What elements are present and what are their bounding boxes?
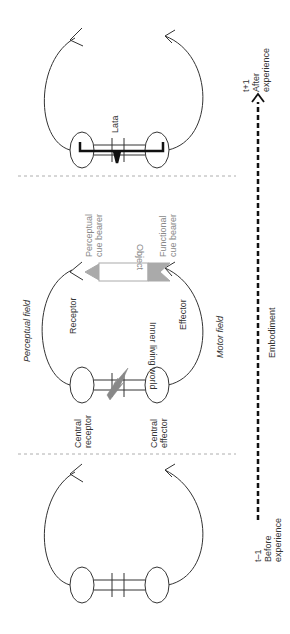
functional-circle-middle (42, 262, 203, 403)
effector-label: Effector (178, 299, 188, 330)
diagram-canvas (0, 0, 290, 634)
lightning-icon (107, 368, 128, 400)
inner-living-world-label: Inner living world (148, 322, 158, 390)
perceptual-cue-bearer-shape (85, 264, 99, 280)
before-experience-label: t–1 Before experience (253, 518, 283, 562)
motor-field-label: Motor field (215, 316, 225, 358)
functional-circle-after (44, 28, 203, 168)
perceptual-field-label: Perceptual field (22, 300, 32, 362)
functional-circle-before (44, 464, 203, 603)
central-receptor-label: Central receptor (73, 415, 93, 448)
perceptual-cue-bearer-label: Perceptual cue bearer (84, 214, 104, 257)
embodiment-label: Embodiment (267, 307, 277, 358)
lata-label: Lata (110, 115, 120, 133)
timeline-arrowhead-icon (252, 94, 264, 102)
after-experience-label: t+1 After experience (241, 48, 271, 92)
object-label: Object (135, 244, 145, 270)
receptor-label: Receptor (68, 297, 78, 334)
functional-cue-bearer-label: Functional cue bearer (158, 214, 178, 257)
functional-cue-bearer-shape (148, 263, 170, 281)
central-effector-label: Central effector (149, 418, 169, 448)
